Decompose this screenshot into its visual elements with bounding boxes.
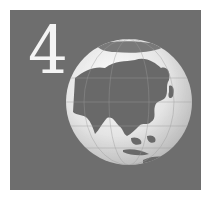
chapter-panel: 4 [10,10,201,190]
chapter-number: 4 [28,18,68,84]
globe-icon [65,38,193,166]
